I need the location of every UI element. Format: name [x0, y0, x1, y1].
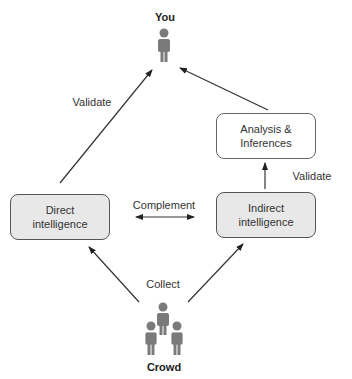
indirect-line2: intelligence: [238, 215, 293, 229]
group-icon: [145, 303, 183, 356]
you-label: You: [155, 11, 175, 23]
analysis-line1: Analysis &: [240, 122, 291, 136]
indirect-line1: Indirect: [238, 201, 293, 215]
person-icon: [158, 29, 170, 63]
validate-left-arrow: [60, 70, 152, 183]
analysis-line2: Inferences: [240, 136, 291, 150]
indirect-intelligence-box: Indirect intelligence: [216, 192, 316, 238]
collect-label: Collect: [146, 278, 180, 290]
complement-label: Complement: [133, 199, 195, 211]
crowd-label: Crowd: [147, 361, 181, 373]
collect-right-arrow: [188, 244, 243, 302]
validate-left-label: Validate: [73, 96, 112, 108]
validate-right-label: Validate: [293, 170, 332, 182]
direct-line2: intelligence: [32, 217, 87, 231]
diagram-canvas: [0, 0, 352, 379]
analysis-inferences-box: Analysis & Inferences: [216, 113, 316, 159]
direct-intelligence-box: Direct intelligence: [10, 194, 110, 240]
collect-left-arrow: [89, 247, 139, 302]
direct-line1: Direct: [32, 203, 87, 217]
analysis-to-you-arrow: [180, 68, 268, 110]
